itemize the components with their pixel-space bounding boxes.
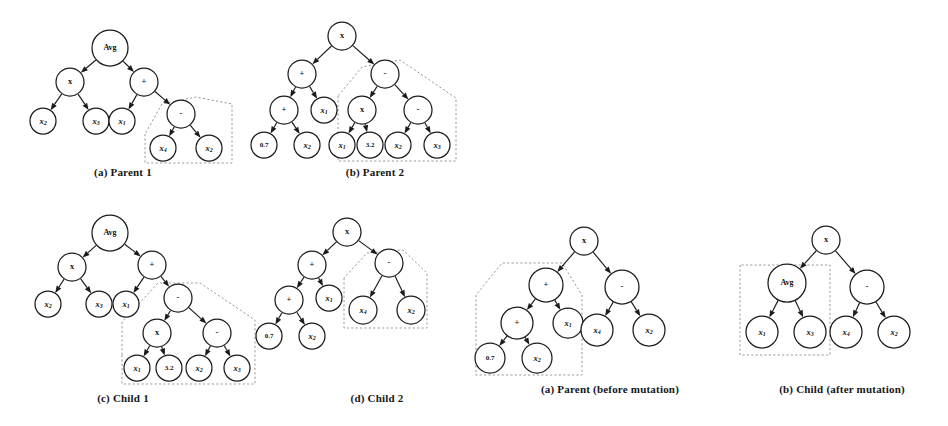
tree-edge bbox=[137, 277, 144, 287]
tree-node: - bbox=[850, 270, 884, 304]
tree-edge bbox=[274, 123, 277, 128]
edge-arrowhead bbox=[853, 310, 858, 317]
edge-arrowhead bbox=[524, 337, 530, 344]
tree-edge bbox=[773, 300, 779, 311]
tree-edge bbox=[189, 308, 201, 319]
tree-edge bbox=[172, 127, 174, 130]
tree-edge bbox=[147, 346, 150, 351]
tree-edge bbox=[162, 347, 163, 349]
tree-edge bbox=[319, 278, 320, 280]
tree-edge bbox=[504, 336, 507, 340]
edge-arrowhead bbox=[297, 281, 303, 288]
tree-edge bbox=[78, 94, 85, 104]
tree-node: x3 bbox=[224, 355, 250, 381]
node-label: Avg bbox=[780, 278, 793, 287]
tree-edge bbox=[224, 346, 227, 351]
edge-arrowhead bbox=[370, 91, 376, 98]
tree-node: x1 bbox=[329, 132, 355, 158]
figure-caption-parent-1: (a) Parent 1 bbox=[58, 166, 188, 178]
tree-node: + bbox=[275, 286, 303, 314]
node-label: 0.7 bbox=[265, 332, 274, 340]
tree-node: x2 bbox=[522, 343, 552, 373]
tree-edge bbox=[327, 242, 336, 251]
edge-arrowhead bbox=[134, 250, 141, 256]
edge-arrowhead bbox=[798, 310, 803, 317]
edge-arrowhead bbox=[128, 102, 134, 109]
node-label: + bbox=[544, 279, 549, 289]
tree-graph-parent-1: Avgx+x2x3x1-x4x2 bbox=[0, 0, 250, 165]
tree-node: - bbox=[164, 284, 192, 312]
edge-arrowhead bbox=[317, 279, 323, 286]
tree-edge bbox=[168, 310, 171, 314]
node-label: - bbox=[417, 104, 420, 114]
tree-edge bbox=[631, 302, 636, 311]
edge-arrowhead bbox=[370, 248, 377, 254]
node-label: - bbox=[621, 281, 624, 291]
tree-node: x1 bbox=[746, 316, 778, 348]
node-label: - bbox=[216, 327, 219, 337]
figure-caption-mutation-parent: (a) Parent (before mutation) bbox=[510, 383, 710, 395]
tree-node: x bbox=[328, 22, 356, 50]
node-label: + bbox=[150, 259, 155, 269]
tree-graph-child-1: Avgx+x2x3x1-x-x13.2x2x3 bbox=[0, 205, 260, 385]
tree-node: Avg bbox=[92, 215, 128, 251]
tree-node: - bbox=[605, 270, 639, 304]
tree-edge bbox=[805, 251, 817, 264]
node-label: 0.7 bbox=[486, 354, 495, 362]
tree-node: - bbox=[167, 100, 195, 128]
node-label: - bbox=[388, 257, 391, 267]
tree-edge bbox=[317, 46, 331, 59]
tree-node: x bbox=[348, 96, 376, 124]
edge-arrowhead bbox=[634, 309, 640, 316]
node-label: 3.2 bbox=[366, 141, 375, 149]
tree-graph-parent-2: x+-+x1x-0.7x2x13.2x2x3 bbox=[250, 0, 500, 165]
node-label: + bbox=[282, 104, 287, 114]
tree-node: 0.7 bbox=[251, 132, 277, 158]
edge-arrowhead bbox=[527, 303, 533, 310]
tree-node: x2 bbox=[385, 132, 411, 158]
tree-node: x bbox=[570, 227, 598, 255]
tree-edge bbox=[190, 125, 196, 132]
node-label: Avg bbox=[103, 43, 116, 52]
tree-node: 3.2 bbox=[156, 355, 182, 381]
tree-edge bbox=[876, 302, 882, 312]
tree-node: + bbox=[501, 307, 533, 339]
edge-arrowhead bbox=[769, 310, 775, 317]
edge-arrowhead bbox=[160, 348, 165, 355]
figure-caption-mutation-child: (b) Child (after mutation) bbox=[742, 383, 942, 395]
tree-node: x2 bbox=[35, 291, 61, 317]
tree-node: + bbox=[138, 251, 166, 279]
tree-node: + bbox=[270, 96, 298, 124]
edge-arrowhead bbox=[133, 286, 139, 293]
tree-edge bbox=[155, 91, 165, 100]
tree-edge bbox=[293, 87, 295, 91]
tree-edge bbox=[301, 277, 304, 282]
edge-arrowhead bbox=[83, 103, 89, 110]
tree-node: + bbox=[130, 68, 158, 96]
tree-node: 0.7 bbox=[475, 343, 505, 373]
figure-child-1: Avgx+x2x3x1-x-x13.2x2x3 bbox=[0, 205, 260, 385]
tree-edge bbox=[395, 276, 402, 291]
tree-node: x bbox=[143, 319, 171, 347]
edge-arrowhead bbox=[299, 318, 305, 325]
tree-node: x2 bbox=[633, 314, 665, 346]
figure-child-2: x+-+x1x4x20.7x2 bbox=[255, 205, 500, 385]
tree-edge bbox=[125, 244, 135, 252]
figure-caption-child-2: (d) Child 2 bbox=[312, 392, 442, 404]
node-label: + bbox=[310, 259, 315, 269]
tree-graph-mutation-parent: x+-+x1x4x20.7x2 bbox=[492, 215, 722, 385]
tree-node: x bbox=[58, 253, 86, 281]
edge-arrowhead bbox=[349, 126, 355, 133]
edge-arrowhead bbox=[363, 125, 368, 132]
tree-edge bbox=[408, 123, 411, 128]
edge-arrowhead bbox=[290, 90, 296, 97]
tree-graph-mutation-child: xAvg-x1x3x4x2 bbox=[722, 215, 948, 385]
edge-arrowhead bbox=[370, 290, 376, 297]
tree-edge bbox=[132, 95, 137, 104]
tree-edge bbox=[525, 337, 526, 338]
tree-node: x1 bbox=[109, 108, 135, 134]
tree-edge bbox=[836, 251, 852, 269]
tree-node: x2 bbox=[397, 296, 425, 324]
tree-node: x4 bbox=[349, 296, 377, 324]
tree-node: x4 bbox=[150, 135, 176, 161]
